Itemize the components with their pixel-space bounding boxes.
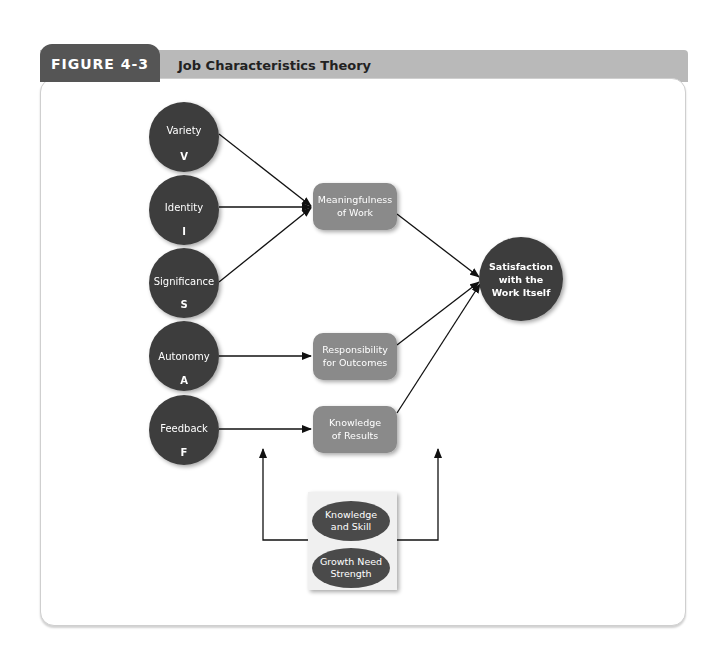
svg-text:with the: with the: [499, 274, 543, 285]
edge-variety-meaningfulness: [219, 134, 311, 206]
job-characteristics-diagram: Variety V Identity I Significance S Auto…: [0, 0, 720, 647]
svg-text:Strength: Strength: [330, 568, 371, 579]
svg-text:Significance: Significance: [154, 276, 215, 287]
node-autonomy: Autonomy A: [149, 321, 219, 391]
svg-text:A: A: [180, 375, 188, 386]
edge-meaningfulness-satisfaction: [397, 214, 479, 277]
svg-text:of Work: of Work: [337, 207, 374, 218]
svg-text:Growth Need: Growth Need: [320, 556, 382, 567]
svg-text:F: F: [181, 447, 188, 458]
svg-text:Identity: Identity: [165, 202, 203, 213]
node-knowledge-and-skill: Knowledge and Skill: [312, 501, 390, 541]
svg-text:Variety: Variety: [166, 125, 201, 136]
psychological-states: Meaningfulness of Work Responsibility fo…: [313, 183, 397, 453]
svg-text:and Skill: and Skill: [331, 521, 371, 532]
node-responsibility-for-outcomes: Responsibility for Outcomes: [313, 333, 397, 380]
svg-text:Autonomy: Autonomy: [158, 351, 209, 362]
svg-text:Meaningfulness: Meaningfulness: [318, 194, 392, 205]
svg-text:of Results: of Results: [332, 430, 379, 441]
node-identity: Identity I: [149, 175, 219, 245]
node-feedback: Feedback F: [149, 395, 219, 465]
node-variety: Variety V: [149, 102, 219, 172]
moderators-box: Knowledge and Skill Growth Need Strength: [308, 492, 397, 590]
svg-text:I: I: [182, 226, 186, 237]
core-dimensions: Variety V Identity I Significance S Auto…: [149, 102, 219, 465]
node-significance: Significance S: [149, 248, 219, 318]
node-growth-need-strength: Growth Need Strength: [312, 548, 390, 588]
edge-moderator-right: [397, 449, 438, 540]
svg-text:Feedback: Feedback: [160, 423, 208, 434]
svg-text:S: S: [180, 299, 187, 310]
node-meaningfulness-of-work: Meaningfulness of Work: [313, 183, 397, 230]
svg-text:Satisfaction: Satisfaction: [489, 261, 553, 272]
svg-text:for Outcomes: for Outcomes: [323, 357, 387, 368]
edge-significance-meaningfulness: [219, 208, 311, 282]
edge-knowledge-results-satisfaction: [397, 284, 480, 413]
node-satisfaction-with-work-itself: Satisfaction with the Work Itself: [479, 237, 563, 321]
node-knowledge-of-results: Knowledge of Results: [313, 406, 397, 453]
edge-moderator-left: [263, 449, 308, 540]
svg-text:V: V: [180, 151, 188, 162]
edge-responsibility-satisfaction: [397, 282, 479, 345]
svg-text:Knowledge: Knowledge: [329, 417, 381, 428]
svg-text:Work Itself: Work Itself: [492, 287, 551, 298]
svg-text:Responsibility: Responsibility: [322, 344, 388, 355]
svg-text:Knowledge: Knowledge: [325, 509, 377, 520]
